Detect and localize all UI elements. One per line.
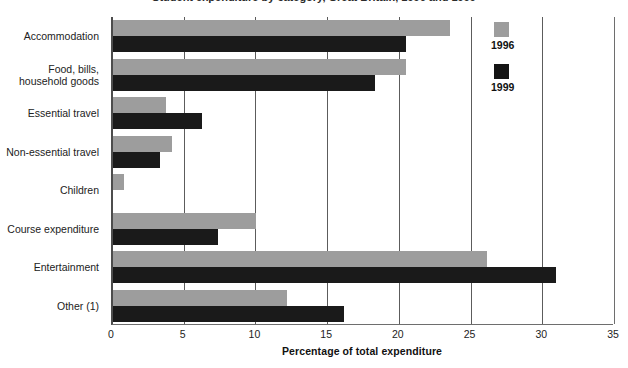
- bar-1996: [113, 174, 124, 190]
- legend-label-1999: 1999: [491, 81, 551, 93]
- category-label: Course expenditure: [0, 223, 105, 235]
- category-label: Accommodation: [0, 30, 105, 42]
- bar-1996: [113, 20, 450, 36]
- x-tick-label-25: 25: [464, 327, 476, 341]
- category-label: Entertainment: [0, 261, 105, 273]
- bar-1999: [113, 229, 218, 245]
- bar-1999: [113, 152, 160, 168]
- black-swatch-icon: [494, 64, 509, 79]
- legend-label-1996: 1996: [491, 39, 551, 51]
- legend-item-1996: 1996: [491, 22, 551, 51]
- bar-1999: [113, 75, 375, 91]
- chart-title: Student expenditure by category, Great B…: [0, 0, 628, 3]
- bar-group: [113, 133, 613, 172]
- gridline-35: [614, 17, 615, 324]
- bar-1996: [113, 97, 166, 113]
- x-tick-label-0: 0: [108, 327, 114, 341]
- bar-chart: Student expenditure by category, Great B…: [0, 0, 628, 368]
- category-label: Food, bills, household goods: [0, 63, 105, 87]
- bar-1996: [113, 213, 256, 229]
- x-axis-title: Percentage of total expenditure: [111, 345, 613, 357]
- x-tick-label-20: 20: [392, 327, 404, 341]
- bar-group: [113, 171, 613, 210]
- bar-1999: [113, 267, 556, 283]
- bar-1999: [113, 36, 406, 52]
- bar-group: [113, 248, 613, 287]
- x-tick-label-30: 30: [535, 327, 547, 341]
- x-tick-label-5: 5: [180, 327, 186, 341]
- x-tick-label-35: 35: [607, 327, 619, 341]
- x-axis-ticks: 05101520253035: [0, 327, 628, 343]
- legend-item-1999: 1999: [491, 64, 551, 93]
- category-axis-labels: AccommodationFood, bills, household good…: [0, 17, 105, 325]
- bar-group: [113, 210, 613, 249]
- category-label: Other (1): [0, 300, 105, 312]
- x-tick-label-15: 15: [320, 327, 332, 341]
- chart-legend: 1996 1999: [491, 22, 551, 106]
- bar-1996: [113, 136, 172, 152]
- gray-swatch-icon: [494, 22, 509, 37]
- category-label: Essential travel: [0, 107, 105, 119]
- bar-group: [113, 287, 613, 326]
- x-tick-label-10: 10: [249, 327, 261, 341]
- bar-1999: [113, 113, 202, 129]
- chart-title-clipped: Student expenditure by category, Great B…: [0, 0, 628, 3]
- bar-1996: [113, 290, 287, 306]
- bar-1999: [113, 306, 344, 322]
- category-label: Children: [0, 184, 105, 196]
- category-label: Non-essential travel: [0, 146, 105, 158]
- bar-1996: [113, 59, 406, 75]
- bar-1996: [113, 251, 487, 267]
